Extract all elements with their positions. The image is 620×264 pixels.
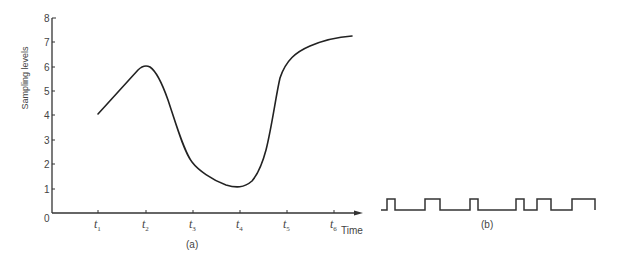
svg-text:t3: t3 xyxy=(189,217,196,233)
svg-text:1: 1 xyxy=(44,184,50,195)
panel-label-b: (b) xyxy=(481,219,493,230)
svg-text:3: 3 xyxy=(44,135,50,146)
figure: 8 7 6 5 4 3 2 1 0 Sampling levels t1 t2 … xyxy=(0,0,620,264)
panel-label-a: (a) xyxy=(186,239,198,250)
svg-text:t6: t6 xyxy=(330,217,337,233)
pulse-train xyxy=(381,199,595,210)
svg-text:5: 5 xyxy=(44,86,50,97)
y-tick-labels: 8 7 6 5 4 3 2 1 xyxy=(44,13,50,195)
svg-text:7: 7 xyxy=(44,37,50,48)
origin-label: 0 xyxy=(44,213,50,224)
signal-curve xyxy=(98,36,352,187)
svg-text:t2: t2 xyxy=(142,217,149,233)
svg-text:4: 4 xyxy=(44,110,50,121)
svg-text:6: 6 xyxy=(44,62,50,73)
svg-text:t4: t4 xyxy=(236,217,243,233)
x-axis-arrow-icon xyxy=(354,211,363,216)
svg-text:t1: t1 xyxy=(94,217,101,233)
svg-text:t5: t5 xyxy=(283,217,290,233)
svg-text:8: 8 xyxy=(44,13,50,24)
x-axis-label: Time xyxy=(341,225,363,236)
y-axis-label: Sampling levels xyxy=(20,46,30,110)
x-tick-labels: t1 t2 t3 t4 t5 t6 xyxy=(94,217,337,233)
svg-text:2: 2 xyxy=(44,159,50,170)
